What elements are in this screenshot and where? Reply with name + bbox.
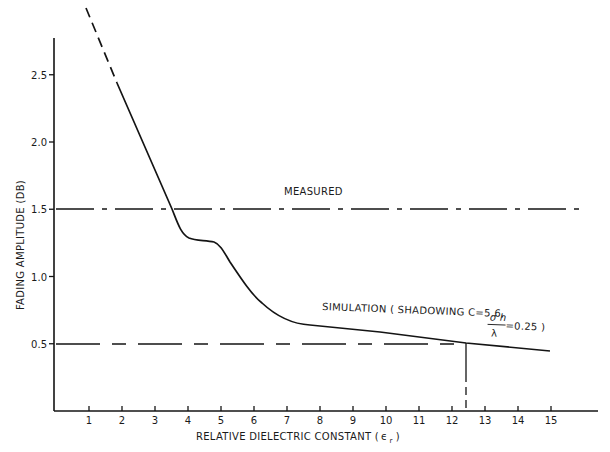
x-axis-ticks: 123456789101112131415 [86, 406, 558, 426]
x-tick-label: 4 [185, 415, 191, 426]
measured-label: MEASURED [284, 186, 343, 197]
svg-text:λ: λ [491, 328, 498, 339]
x-axis-label: RELATIVE DIELECTRIC CONSTANT (ϵr) [196, 431, 400, 445]
y-axis-ticks: 0.51.01.52.02.5 [31, 70, 54, 350]
x-tick-label: 3 [152, 415, 158, 426]
x-tick-label: 15 [545, 415, 558, 426]
x-tick-label: 13 [479, 415, 492, 426]
svg-text:RELATIVE DIELECTRIC CONSTANT (: RELATIVE DIELECTRIC CONSTANT (ϵr) [196, 431, 400, 445]
x-tick-label: 10 [380, 415, 393, 426]
y-tick-label: 2.0 [31, 137, 47, 148]
y-tick-label: 1.5 [31, 204, 47, 215]
svg-text:=0.25 ): =0.25 ) [505, 320, 545, 333]
y-tick-label: 1.0 [31, 272, 47, 283]
x-tick-label: 12 [446, 415, 459, 426]
x-tick-label: 5 [218, 415, 224, 426]
x-tick-label: 6 [251, 415, 257, 426]
simulation-curve-dashed [86, 8, 117, 83]
x-tick-label: 9 [350, 415, 356, 426]
x-tick-label: 11 [413, 415, 426, 426]
x-tick-label: 14 [512, 415, 525, 426]
y-tick-label: 0.5 [31, 339, 47, 350]
svg-text:σ h: σ h [490, 311, 507, 323]
y-tick-label: 2.5 [31, 70, 47, 81]
x-tick-label: 7 [284, 415, 290, 426]
x-tick-label: 8 [317, 415, 323, 426]
svg-text:SIMULATION ( SHADOWING C=5.6,: SIMULATION ( SHADOWING C=5.6, [322, 301, 505, 319]
x-tick-label: 2 [119, 415, 125, 426]
y-axis-label: FADING AMPLITUDE (DB) [15, 180, 26, 310]
simulation-label: SIMULATION ( SHADOWING C=5.6, σ h λ =0.2… [321, 301, 546, 341]
x-tick-label: 1 [86, 415, 92, 426]
fading-amplitude-chart: 0.51.01.52.02.5 123456789101112131415 FA… [0, 0, 610, 452]
